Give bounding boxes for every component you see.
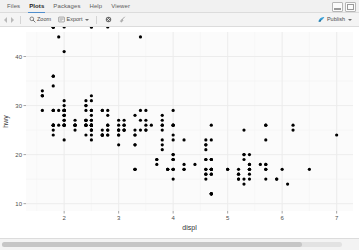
tab-viewer[interactable]: Viewer [110, 0, 131, 12]
y-tick-label: 20 [15, 152, 22, 158]
tab-packages[interactable]: Packages [52, 0, 81, 12]
publish-button[interactable]: Publish [317, 14, 353, 25]
maximize-pane-icon[interactable] [345, 2, 356, 12]
plots-pane: Files Plots Packages Help Viewer Zoom [0, 0, 359, 250]
remove-plot-button[interactable] [103, 15, 113, 24]
export-button-label: Export [67, 15, 83, 24]
y-tick-label: 40 [15, 54, 22, 60]
pane-tabs: Files Plots Packages Help Viewer [6, 0, 131, 12]
toolbar-separator-1 [20, 16, 21, 24]
plots-toolbar-left: Zoom Export [4, 13, 127, 26]
y-tick-label: 30 [15, 103, 22, 109]
chevron-down-icon [85, 19, 89, 21]
y-axis-title: hwy [2, 115, 10, 128]
chevron-down-icon [348, 19, 352, 21]
zoom-button[interactable]: Zoom [27, 14, 53, 25]
pane-window-controls [332, 2, 356, 12]
plots-toolbar-right: Publish [317, 13, 353, 26]
tab-help[interactable]: Help [89, 0, 104, 12]
x-axis-title: displ [182, 224, 197, 232]
plots-toolbar: Zoom Export [0, 13, 359, 27]
zoom-button-label: Zoom [37, 15, 51, 24]
next-plot-icon[interactable] [11, 17, 14, 23]
remove-plot-icon [105, 16, 112, 23]
broom-icon [119, 16, 126, 23]
minimize-pane-icon[interactable] [332, 2, 343, 12]
toolbar-separator-2 [96, 16, 97, 24]
publish-icon [318, 16, 325, 23]
pane-bottom-bar [0, 238, 359, 250]
publish-button-label: Publish [327, 15, 345, 24]
magnifier-icon [29, 16, 36, 23]
export-button[interactable]: Export [57, 14, 91, 25]
tab-files[interactable]: Files [6, 0, 21, 12]
export-icon [58, 16, 65, 23]
y-tick-label: 10 [15, 201, 22, 207]
clear-all-plots-button[interactable] [117, 15, 127, 24]
scatter-plot: 23456710203040 displ hwy [0, 27, 359, 238]
horizontal-scrollbar[interactable] [2, 242, 342, 247]
previous-plot-icon[interactable] [4, 17, 7, 23]
plot-display-area[interactable]: 23456710203040 displ hwy [0, 27, 359, 238]
pane-tab-bar: Files Plots Packages Help Viewer [0, 0, 359, 13]
horizontal-scrollbar-thumb[interactable] [2, 242, 302, 247]
tab-plots[interactable]: Plots [28, 0, 45, 13]
